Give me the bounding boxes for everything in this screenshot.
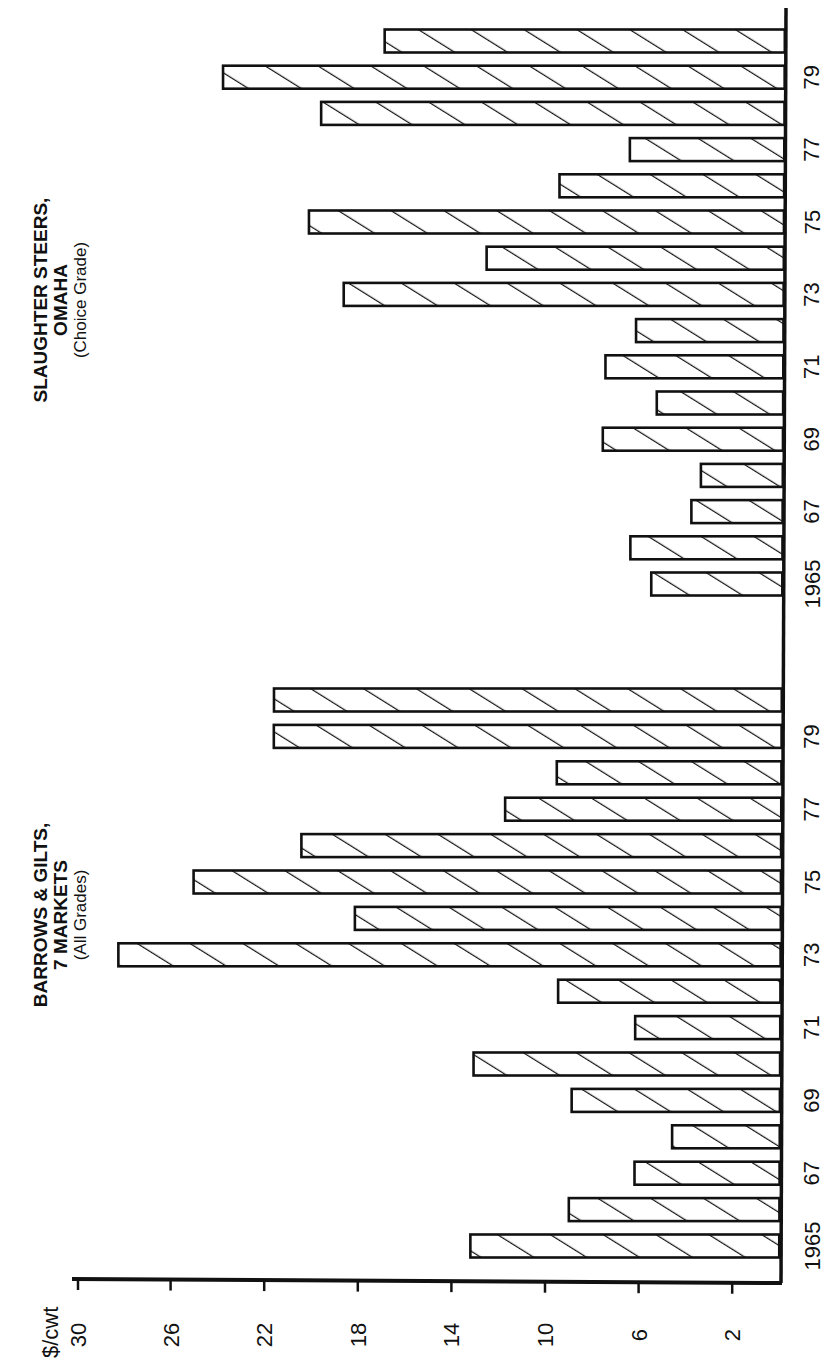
bar-steers-1976 (560, 174, 785, 197)
bar-barrows-1967 (635, 1162, 780, 1185)
bar-steers-1974 (487, 247, 784, 270)
year-label-barrows: 73 (800, 943, 825, 967)
bar-barrows-1968 (672, 1125, 780, 1148)
year-label-steers: 69 (800, 427, 825, 451)
tick-label: 30 (66, 1323, 91, 1347)
bar-steers-1980 (385, 30, 785, 53)
chart-canvas: 26101418222630$/cwt 19656769717375777919… (0, 0, 839, 1361)
barrows-title-line: BARROWS & GILTS, (30, 823, 51, 1007)
bar-barrows-1977 (505, 798, 781, 821)
bar-steers-1967 (691, 500, 782, 523)
tick-label: 14 (439, 1323, 464, 1347)
year-labels: 196567697173757779196567697173757779 (800, 65, 825, 1271)
steers-title-line: SLAUGHTER STEERS, (30, 198, 51, 403)
price-bar-chart: 26101418222630$/cwt 19656769717375777919… (0, 0, 839, 1361)
bar-steers-1968 (701, 464, 783, 487)
bar-barrows-1969 (572, 1089, 780, 1112)
bar-barrows-1974 (355, 907, 781, 930)
panel-titles: BARROWS & GILTS,7 MARKETS(All Grades)SLA… (30, 198, 90, 1008)
bar-steers-1966 (630, 536, 782, 559)
bar-barrows-1965 (470, 1235, 779, 1258)
year-label-barrows: 77 (800, 797, 825, 821)
bar-barrows-1966 (569, 1198, 780, 1221)
value-axis-line (72, 1279, 782, 1283)
steers-title-line: OMAHA (50, 264, 71, 336)
tick-label: 18 (346, 1323, 371, 1347)
unit-label: $/cwt (38, 1307, 63, 1358)
category-axis-line (781, 8, 786, 1283)
bar-barrows-1973 (118, 943, 780, 966)
year-label-barrows: 1965 (800, 1222, 825, 1271)
year-label-steers: 79 (800, 65, 825, 89)
year-label-steers: 77 (800, 137, 825, 161)
year-label-steers: 67 (800, 499, 825, 523)
bar-steers-1970 (657, 392, 783, 415)
bar-steers-1971 (605, 355, 783, 378)
tick-label: 10 (533, 1323, 558, 1347)
year-label-barrows: 71 (800, 1015, 825, 1039)
bar-barrows-1975 (194, 871, 781, 894)
tick-label: 2 (720, 1329, 745, 1341)
bar-steers-1969 (603, 428, 783, 451)
barrows-title-line: (All Grades) (71, 870, 90, 961)
bar-steers-1977 (630, 138, 784, 161)
bar-barrows-1976 (301, 834, 781, 857)
barrows-title-line: 7 MARKETS (50, 860, 71, 970)
bar-barrows-1970 (474, 1053, 781, 1076)
year-label-barrows: 75 (800, 870, 825, 894)
year-label-steers: 75 (800, 210, 825, 234)
bar-steers-1973 (344, 283, 784, 306)
bar-steers-1978 (321, 102, 784, 125)
bar-steers-1972 (636, 319, 783, 342)
year-label-steers: 71 (800, 355, 825, 379)
tick-label: 22 (252, 1323, 277, 1347)
bar-barrows-1978 (557, 761, 782, 784)
year-label-barrows: 79 (800, 724, 825, 748)
bar-barrows-1980 (274, 689, 782, 712)
year-label-steers: 73 (800, 282, 825, 306)
bar-steers-1965 (651, 573, 782, 596)
bar-barrows-1972 (558, 980, 780, 1003)
year-label-barrows: 69 (800, 1088, 825, 1112)
bar-steers-1975 (309, 211, 784, 234)
steers-title-line: (Choice Grade) (71, 242, 90, 358)
year-label-steers: 1965 (800, 560, 825, 609)
bars (118, 30, 784, 1258)
tick-label: 26 (159, 1323, 184, 1347)
bar-steers-1979 (223, 66, 785, 89)
bar-barrows-1971 (635, 1016, 780, 1039)
bar-barrows-1979 (274, 725, 782, 748)
year-label-barrows: 67 (800, 1161, 825, 1185)
tick-label: 6 (627, 1329, 652, 1341)
